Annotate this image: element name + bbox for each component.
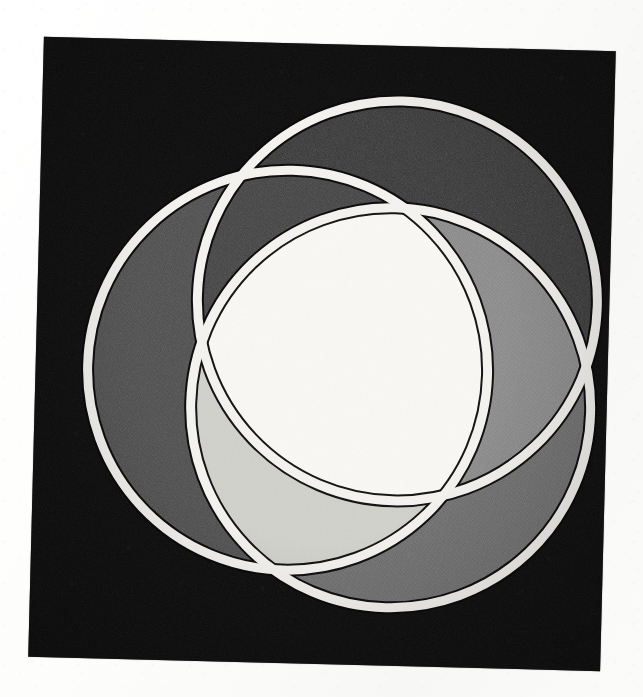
photographic-plate — [28, 37, 616, 671]
page-root: Three overlapping circles diagram A phot… — [0, 0, 643, 697]
venn-region-fills — [28, 37, 616, 671]
venn-diagram-figure — [28, 37, 616, 671]
